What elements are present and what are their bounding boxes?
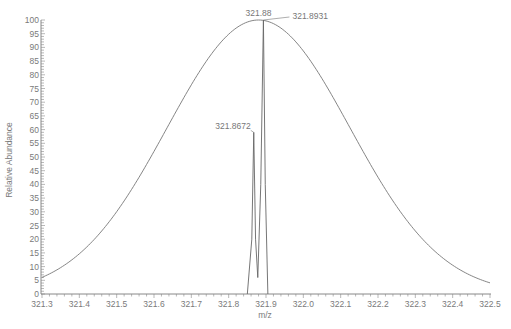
y-axis: 0510152025303540455055606570758085909510… xyxy=(25,15,45,299)
x-tick-label: 322.3 xyxy=(405,299,427,309)
x-tick-label: 321.9 xyxy=(255,299,277,309)
y-tick-label: 75 xyxy=(30,84,40,94)
peak-label: 321.8672 xyxy=(215,121,251,131)
x-tick-label: 322.1 xyxy=(330,299,352,309)
x-tick-label: 321.8 xyxy=(218,299,240,309)
measured-profile xyxy=(247,20,268,294)
y-tick-label: 40 xyxy=(30,179,40,189)
y-tick-label: 15 xyxy=(30,248,40,258)
x-tick-label: 321.5 xyxy=(106,299,128,309)
x-tick-label: 321.6 xyxy=(143,299,165,309)
peak-label: 321.88 xyxy=(246,8,272,18)
y-tick-label: 45 xyxy=(30,166,40,176)
y-tick-label: 70 xyxy=(30,97,40,107)
series-layer xyxy=(42,20,490,294)
y-tick-label: 65 xyxy=(30,111,40,121)
peak-annotations: 321.88321.8931321.8672 xyxy=(215,8,328,132)
x-axis: 321.3321.4321.5321.6321.7321.8321.9322.0… xyxy=(31,294,501,309)
x-tick-label: 321.7 xyxy=(181,299,203,309)
y-tick-label: 100 xyxy=(25,15,39,25)
y-tick-label: 20 xyxy=(30,234,40,244)
x-tick-label: 322.4 xyxy=(442,299,464,309)
y-tick-label: 55 xyxy=(30,138,40,148)
y-tick-label: 35 xyxy=(30,193,40,203)
y-tick-label: 80 xyxy=(30,70,40,80)
y-tick-label: 90 xyxy=(30,42,40,52)
x-tick-label: 321.3 xyxy=(31,299,53,309)
x-tick-label: 321.4 xyxy=(69,299,91,309)
x-tick-label: 322.2 xyxy=(367,299,389,309)
x-axis-title: m/z xyxy=(258,310,272,320)
mass-spectrum-chart: 0510152025303540455055606570758085909510… xyxy=(0,0,511,329)
y-tick-label: 10 xyxy=(30,262,40,272)
x-tick-label: 322.5 xyxy=(479,299,501,309)
peak-label: 321.8931 xyxy=(292,11,328,21)
y-tick-label: 5 xyxy=(34,275,39,285)
y-tick-label: 85 xyxy=(30,56,40,66)
y-axis-title: Relative Abundance xyxy=(4,122,14,198)
y-tick-label: 25 xyxy=(30,221,40,231)
y-tick-label: 50 xyxy=(30,152,40,162)
envelope-curve xyxy=(42,20,490,283)
y-tick-label: 30 xyxy=(30,207,40,217)
x-tick-label: 322.0 xyxy=(293,299,315,309)
y-tick-label: 0 xyxy=(34,289,39,299)
y-tick-label: 95 xyxy=(30,29,40,39)
y-tick-label: 60 xyxy=(30,125,40,135)
